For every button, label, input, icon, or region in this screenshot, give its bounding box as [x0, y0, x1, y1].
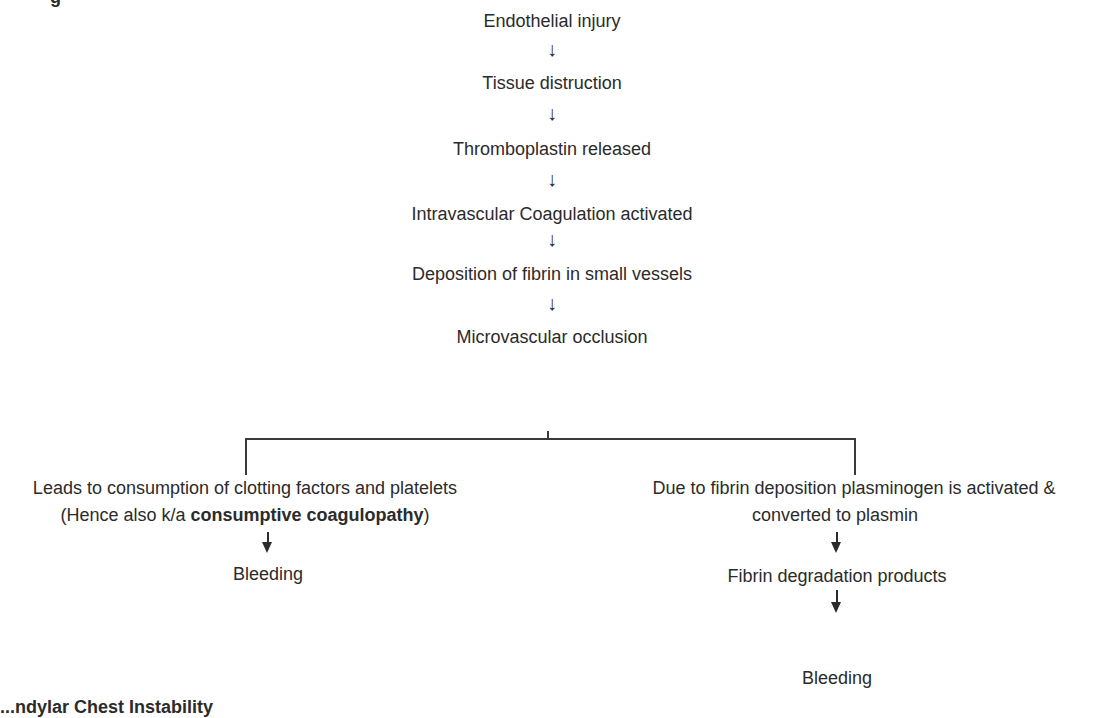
left-branch-line2-suffix: ): [424, 505, 430, 525]
right-branch-line2: converted to plasmin: [752, 504, 918, 526]
right-outcome-bleeding: Bleeding: [802, 667, 872, 689]
node-thromboplastin-released: Thromboplastin released: [453, 138, 651, 160]
connector-left-drop: [245, 438, 247, 475]
left-branch-line1: Leads to consumption of clotting factors…: [33, 477, 457, 499]
term-consumptive-coagulopathy: consumptive coagulopathy: [191, 505, 424, 525]
node-microvascular-occlusion: Microvascular occlusion: [456, 326, 647, 348]
left-branch-line2: (Hence also k/a consumptive coagulopathy…: [60, 504, 429, 526]
left-outcome-bleeding: Bleeding: [233, 563, 303, 585]
arrow-down-icon: ↓: [547, 168, 557, 190]
arrow-down-icon: ↓: [547, 228, 557, 250]
arrow-down-icon: ↓: [547, 38, 557, 60]
node-endothelial-injury: Endothelial injury: [483, 10, 620, 32]
left-branch-line2-prefix: (Hence also k/a: [60, 505, 190, 525]
right-step-fibrin-degradation: Fibrin degradation products: [727, 565, 946, 587]
arrow-down-icon: ↓: [547, 102, 557, 124]
connector-horizontal: [245, 438, 856, 440]
node-tissue-destruction: Tissue distruction: [482, 72, 621, 94]
arrow-down-icon: ↓: [547, 292, 557, 314]
cropped-heading-fragment-top: g: [50, 0, 61, 8]
connector-right-drop: [854, 438, 856, 475]
node-intravascular-coagulation: Intravascular Coagulation activated: [411, 203, 692, 225]
cropped-heading-fragment-bottom: ...ndylar Chest Instability: [0, 697, 213, 718]
node-fibrin-deposition: Deposition of fibrin in small vessels: [412, 263, 692, 285]
right-branch-line1: Due to fibrin deposition plasminogen is …: [652, 477, 1055, 499]
